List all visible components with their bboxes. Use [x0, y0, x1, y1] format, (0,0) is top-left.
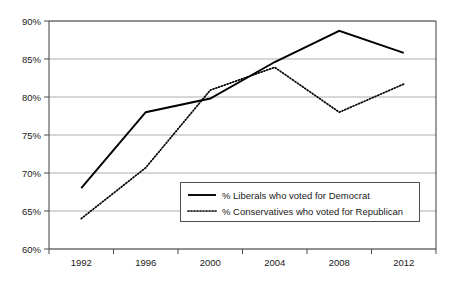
- y-axis-label-70: 70%: [22, 168, 42, 179]
- chart-container: 90% 85% 80% 75% 70% 65% 60% 1992 1996 20…: [0, 0, 455, 282]
- y-axis-label-90: 90%: [22, 16, 42, 27]
- y-axis-labels: 90% 85% 80% 75% 70% 65% 60%: [22, 16, 42, 255]
- x-axis-label-2000: 2000: [200, 257, 221, 268]
- y-axis-label-60: 60%: [22, 244, 42, 255]
- legend: % Liberals who voted for Democrat % Cons…: [181, 183, 420, 222]
- y-axis-label-65: 65%: [22, 206, 42, 217]
- x-axis-label-2008: 2008: [329, 257, 350, 268]
- series-line-liberals-democrat: [81, 31, 404, 188]
- legend-label-liberals-democrat: % Liberals who voted for Democrat: [222, 190, 370, 201]
- x-axis-label-1992: 1992: [71, 257, 92, 268]
- y-tick-marks: [44, 21, 49, 249]
- y-axis-label-85: 85%: [22, 54, 42, 65]
- x-axis-label-2004: 2004: [264, 257, 285, 268]
- x-tick-marks: [49, 249, 436, 254]
- y-axis-label-75: 75%: [22, 130, 42, 141]
- y-axis-label-80: 80%: [22, 92, 42, 103]
- x-axis-label-2012: 2012: [393, 257, 414, 268]
- legend-label-conservatives-republican: % Conservatives who voted for Republican: [222, 206, 403, 217]
- x-axis-label-1996: 1996: [135, 257, 156, 268]
- x-axis-labels: 1992 1996 2000 2004 2008 2012: [71, 257, 415, 268]
- line-chart: 90% 85% 80% 75% 70% 65% 60% 1992 1996 20…: [0, 0, 455, 282]
